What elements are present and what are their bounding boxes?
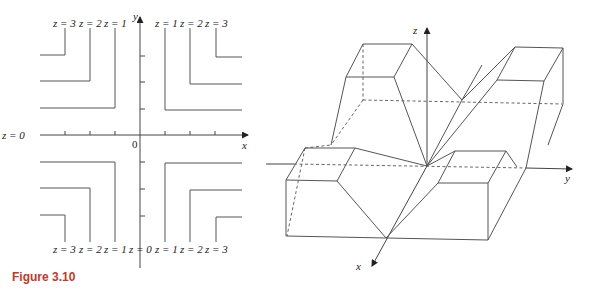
top-left-label-z1: z = 1 — [103, 17, 127, 29]
z0-left-label: z = 0 — [1, 129, 25, 141]
top-right-label-z1: z = 1 — [154, 17, 178, 29]
bottom-label-4: z = 0 — [128, 243, 152, 255]
block-front-left — [286, 145, 427, 238]
figure-caption: Figure 3.10 — [12, 270, 75, 284]
block-back-right — [427, 47, 563, 168]
top-right-label-z2: z = 2 — [179, 17, 203, 29]
y-axis-label: y — [132, 10, 138, 22]
top-left-label-z2: z = 2 — [78, 17, 102, 29]
y-axis-ticks — [140, 56, 145, 216]
x-axis — [372, 166, 427, 266]
bottom-label-3: z = 1 — [103, 243, 127, 255]
top-right-label-z3: z = 3 — [204, 17, 228, 29]
contours-bottom-left — [40, 162, 115, 242]
y-axis-hidden — [294, 164, 526, 168]
y-axis — [526, 168, 572, 169]
bottom-label-2: z = 2 — [78, 243, 102, 255]
x-axis-label: x — [355, 260, 361, 272]
bottom-label-6: z = 2 — [179, 243, 203, 255]
top-left-label-z3: z = 3 — [52, 17, 76, 29]
figure-canvas: y x 0 z = 0 z = 3 z = 2 z = 1 z = 1 z = … — [0, 0, 589, 290]
contour-plot: y x 0 z = 0 z = 3 z = 2 z = 1 z = 1 z = … — [1, 10, 248, 268]
block-front-right — [386, 151, 526, 240]
bottom-label-5: z = 1 — [154, 243, 178, 255]
y-axis-label: y — [564, 172, 570, 184]
surface-plot: z y x — [266, 24, 572, 272]
bottom-label-7: z = 3 — [204, 243, 228, 255]
x-axis-label: x — [241, 139, 247, 151]
z-axis-label: z — [412, 24, 418, 36]
contours-bottom-right — [165, 163, 242, 242]
block-back-left — [331, 44, 562, 166]
contours-top-left — [40, 28, 115, 108]
bottom-label-1: z = 3 — [52, 243, 76, 255]
contours-top-right — [165, 28, 242, 110]
origin-label: 0 — [132, 138, 138, 150]
